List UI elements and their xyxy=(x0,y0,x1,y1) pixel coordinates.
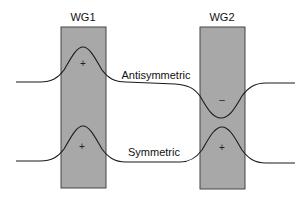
coupled-waveguide-diagram: WG1 WG2 Antisymmetric Symmetric + – + + xyxy=(0,0,308,199)
wg2-label: WG2 xyxy=(209,11,234,23)
symmetric-wg1-sign: + xyxy=(79,141,85,152)
symmetric-label: Symmetric xyxy=(128,146,180,158)
antisymmetric-wg2-sign: – xyxy=(219,94,225,105)
waveguide-wg1 xyxy=(61,27,106,188)
wg1-label: WG1 xyxy=(70,11,95,23)
antisymmetric-label: Antisymmetric xyxy=(121,69,191,81)
antisymmetric-mode-curve xyxy=(16,47,295,118)
antisymmetric-wg1-sign: + xyxy=(80,58,86,69)
symmetric-wg2-sign: + xyxy=(219,142,225,153)
